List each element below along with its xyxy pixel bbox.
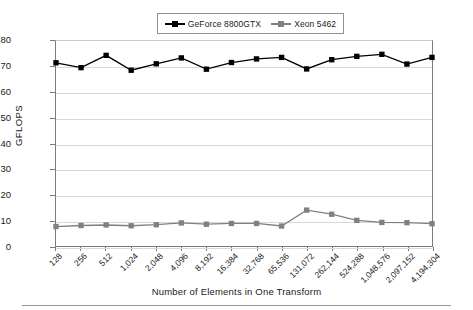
data-point-marker <box>279 223 284 228</box>
x-axis-title: Number of Elements in One Transform <box>0 286 473 297</box>
legend-entry-geforce: GeForce 8800GTX <box>165 19 261 29</box>
y-tick-label: 80 <box>0 35 11 45</box>
data-point-marker <box>254 56 259 61</box>
data-point-marker <box>129 68 134 73</box>
series-geforce <box>53 52 434 73</box>
data-point-marker <box>103 53 108 58</box>
data-point-marker <box>304 207 309 212</box>
data-point-marker <box>429 221 434 226</box>
data-point-marker <box>204 67 209 72</box>
data-point-marker <box>254 221 259 226</box>
data-point-marker <box>229 221 234 226</box>
y-tick-label: 50 <box>0 113 11 123</box>
data-point-marker <box>404 220 409 225</box>
data-point-marker <box>78 65 83 70</box>
data-point-marker <box>179 220 184 225</box>
data-point-marker <box>154 61 159 66</box>
data-point-marker <box>329 212 334 217</box>
data-point-marker <box>53 60 58 65</box>
legend-marker-geforce-icon <box>165 21 185 27</box>
caption-divider <box>22 305 451 306</box>
y-tick-label: 40 <box>0 139 11 149</box>
y-tick-label: 60 <box>0 87 11 97</box>
data-point-marker <box>53 224 58 229</box>
series-xeon <box>53 207 434 229</box>
data-point-marker <box>304 66 309 71</box>
plot-area <box>55 40 433 247</box>
series-line <box>56 54 432 70</box>
legend-marker-xeon-icon <box>271 21 291 27</box>
legend-label-xeon: Xeon 5462 <box>294 19 336 29</box>
data-point-marker <box>379 220 384 225</box>
series-line <box>56 210 432 226</box>
y-tick-label: 70 <box>0 61 11 71</box>
y-tick-label: 20 <box>0 190 11 200</box>
y-tick-label: 30 <box>0 164 11 174</box>
chart-legend: GeForce 8800GTX Xeon 5462 <box>157 13 344 34</box>
data-point-marker <box>404 61 409 66</box>
data-point-marker <box>354 218 359 223</box>
y-tick-label: 0 <box>0 242 11 252</box>
legend-entry-xeon: Xeon 5462 <box>271 19 336 29</box>
data-point-marker <box>78 223 83 228</box>
data-point-marker <box>103 222 108 227</box>
data-point-marker <box>354 54 359 59</box>
data-point-marker <box>329 57 334 62</box>
data-point-marker <box>204 222 209 227</box>
data-point-marker <box>429 55 434 60</box>
data-point-marker <box>154 222 159 227</box>
y-tick-label: 10 <box>0 216 11 226</box>
data-point-marker <box>179 55 184 60</box>
data-point-marker <box>379 52 384 57</box>
legend-label-geforce: GeForce 8800GTX <box>188 19 261 29</box>
gridline <box>56 248 432 249</box>
data-point-marker <box>129 223 134 228</box>
series-layer <box>56 41 432 246</box>
data-point-marker <box>279 55 284 60</box>
figure-container: GeForce 8800GTX Xeon 5462 GFLOPS 0102030… <box>0 0 473 310</box>
data-point-marker <box>229 60 234 65</box>
y-axis-title: GFLOPS <box>13 86 24 166</box>
